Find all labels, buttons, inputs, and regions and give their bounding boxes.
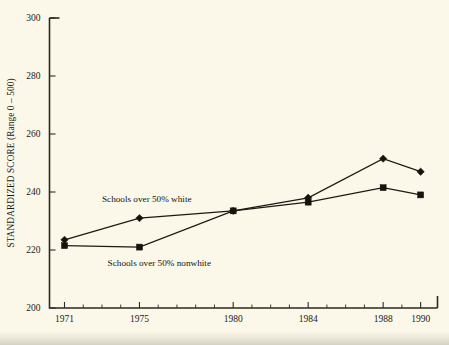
data-point-square [418,192,424,198]
series-annotation-1: Schools over 50% nonwhite [108,258,211,268]
series-annotation-0: Schools over 50% white [102,194,192,204]
data-point-diamond [136,214,143,221]
data-point-square [136,244,142,250]
data-point-square [230,208,236,214]
chart-container: 2002202402602803001971197519801984198819… [0,0,449,345]
data-point-diamond [379,155,386,162]
data-point-square [305,199,311,205]
line-chart: 2002202402602803001971197519801984198819… [0,0,449,345]
y-tick-label: 260 [26,129,41,139]
data-point-diamond [417,168,424,175]
y-tick-label: 220 [26,245,41,255]
x-tick-label: 1990 [411,314,430,324]
y-tick-label: 240 [26,187,41,197]
y-axis-title: STANDARDIZED SCORE (Range 0 – 500) [6,78,17,247]
y-tick-label: 300 [26,13,41,23]
x-tick-label: 1980 [224,314,243,324]
data-point-square [380,185,386,191]
y-tick-label: 200 [26,303,41,313]
x-tick-label: 1975 [130,314,149,324]
y-tick-label: 280 [26,71,41,81]
x-tick-label: 1984 [299,314,318,324]
x-tick-label: 1971 [55,314,74,324]
data-point-square [62,243,68,249]
x-tick-label: 1988 [374,314,393,324]
